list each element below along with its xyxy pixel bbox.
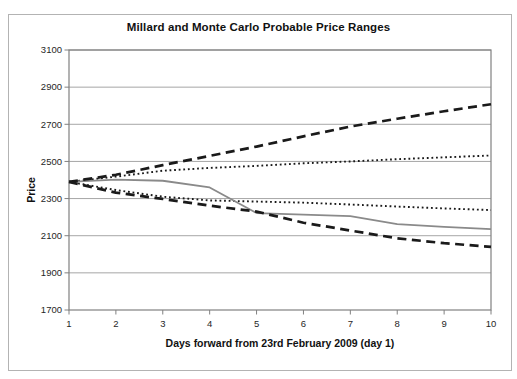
x-tick-label: 1 xyxy=(66,318,71,329)
x-tick-label: 4 xyxy=(207,318,212,329)
y-tick-label: 2300 xyxy=(41,193,62,204)
y-tick-label: 1700 xyxy=(41,304,62,315)
series-central-price-solid xyxy=(69,180,491,229)
page: Millard and Monte Carlo Probable Price R… xyxy=(0,0,517,379)
x-tick-label: 9 xyxy=(441,318,446,329)
price-range-chart: 1700190021002300250027002900310012345678… xyxy=(0,0,517,379)
y-tick-label: 2100 xyxy=(41,230,62,241)
x-tick-label: 2 xyxy=(113,318,118,329)
y-tick-label: 2700 xyxy=(41,119,62,130)
series-upper-range-dashed xyxy=(69,104,491,182)
x-tick-label: 5 xyxy=(254,318,259,329)
series-upper-range-dotted xyxy=(69,155,491,181)
x-tick-label: 10 xyxy=(486,318,497,329)
y-tick-label: 3100 xyxy=(41,44,62,55)
y-tick-label: 1900 xyxy=(41,267,62,278)
y-tick-label: 2900 xyxy=(41,81,62,92)
x-tick-label: 3 xyxy=(160,318,165,329)
x-tick-label: 7 xyxy=(348,318,353,329)
y-tick-label: 2500 xyxy=(41,156,62,167)
x-tick-label: 6 xyxy=(301,318,306,329)
x-tick-label: 8 xyxy=(395,318,400,329)
x-axis-label: Days forward from 23rd February 2009 (da… xyxy=(69,337,491,349)
